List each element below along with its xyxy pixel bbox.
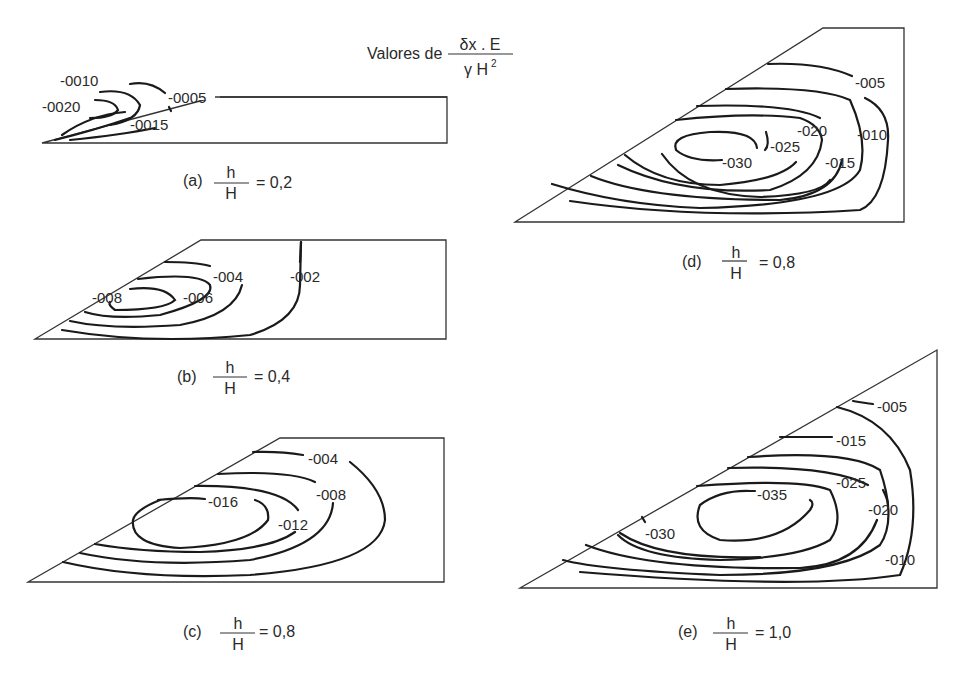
panel-d: -005 -020 -010 -025 -030 -015 (d) h H = …	[515, 28, 904, 282]
header-formula: Valores de δx . E γ H 2	[367, 36, 513, 78]
caption-value: = 1,0	[755, 624, 791, 641]
contour-label: -025	[836, 474, 866, 491]
header-exponent: 2	[491, 58, 497, 69]
contour-label: -025	[770, 138, 800, 155]
caption-value: = 0,4	[254, 368, 290, 385]
contour-label: -020	[868, 501, 898, 518]
contour-label: -015	[836, 432, 866, 449]
header-denominator: γ H	[464, 61, 488, 78]
caption-letter: (b)	[177, 368, 197, 385]
contour-diagram: Valores de δx . E γ H 2 -0010 -0005 -002…	[0, 0, 963, 674]
contour-label: -0015	[130, 116, 168, 133]
caption-frac-num: h	[234, 615, 243, 632]
contour-label: -030	[645, 525, 675, 542]
caption-value: = 0,8	[259, 623, 295, 640]
contour-label: -030	[722, 154, 752, 171]
caption-frac-den: H	[232, 636, 244, 653]
caption-letter: (e)	[678, 623, 698, 640]
contour-label: -006	[183, 289, 213, 306]
caption-frac-num: h	[226, 359, 235, 376]
contour-label: -012	[278, 516, 308, 533]
caption-frac-den: H	[730, 265, 742, 282]
contour-label: -004	[308, 450, 338, 467]
caption-letter: (a)	[183, 172, 203, 189]
panel-c: -004 -008 -016 -012 (c) h H = 0,8	[28, 438, 444, 653]
contour-label: -004	[213, 268, 243, 285]
contour-label: -020	[797, 122, 827, 139]
caption-letter: (c)	[183, 623, 202, 640]
caption-frac-den: H	[224, 380, 236, 397]
caption-frac-num: h	[732, 244, 741, 261]
panel-e: -005 -015 -025 -035 -020 -030 -010 (e) h…	[520, 350, 937, 653]
caption-value: = 0,2	[256, 174, 292, 191]
contour-label: -016	[208, 493, 238, 510]
contour-label: -002	[290, 268, 320, 285]
contour-label: -015	[825, 154, 855, 171]
contour-label: -0005	[168, 89, 206, 106]
contour-label: -010	[857, 126, 887, 143]
panel-d-outline	[515, 28, 904, 222]
caption-frac-num: h	[227, 164, 236, 181]
caption-value: = 0,8	[759, 254, 795, 271]
caption-frac-den: H	[225, 185, 237, 202]
caption-frac-den: H	[725, 636, 737, 653]
contour-label: -005	[877, 398, 907, 415]
contour-label: -0010	[60, 72, 98, 89]
panel-a: -0010 -0005 -0020 -0015 (a) h H = 0,2	[42, 72, 447, 202]
contour-label: -005	[855, 74, 885, 91]
caption-frac-num: h	[727, 615, 736, 632]
header-prefix: Valores de	[367, 45, 442, 62]
contour-label: -008	[316, 486, 346, 503]
contour-label: -0020	[42, 98, 80, 115]
caption-letter: (d)	[682, 253, 702, 270]
contour-label: -008	[92, 289, 122, 306]
panel-b: -004 -002 -008 -006 (b) h H = 0,4	[35, 240, 446, 397]
contour-label: -010	[885, 551, 915, 568]
header-numerator: δx . E	[460, 36, 501, 53]
contour-label: -035	[757, 486, 787, 503]
